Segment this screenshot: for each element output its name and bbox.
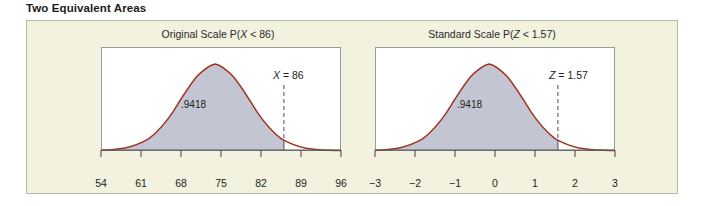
plot-curve-standard (375, 47, 615, 173)
plot-curve-original (101, 47, 341, 173)
tick-label: 82 (255, 177, 267, 189)
tick-label: 0 (492, 177, 498, 189)
tick-label: −3 (369, 177, 381, 189)
tick-label: 68 (175, 177, 187, 189)
figure-title: Two Equivalent Areas (26, 2, 146, 14)
tick-label: 3 (612, 177, 618, 189)
axis-tickmarks-standard (375, 150, 615, 157)
caption-prefix-standard: Standard Scale P( (428, 28, 513, 40)
caption-prefix-original: Original Scale P( (162, 28, 241, 40)
tick-label: −1 (449, 177, 461, 189)
area-probability-label-original: .9418 (181, 99, 206, 110)
tick-label: 61 (135, 177, 147, 189)
area-probability-label-standard: .9418 (457, 99, 482, 110)
tick-label: 96 (335, 177, 347, 189)
tick-label: 89 (295, 177, 307, 189)
axis-tickmarks-original (101, 150, 341, 157)
cutoff-value-original: = 86 (280, 69, 304, 81)
chart-original-scale: Original Scale P(X < 86) (73, 21, 363, 193)
caption-suffix-standard: < 1.57) (520, 28, 556, 40)
axis-tick-labels-original: 54 61 68 75 82 89 96 (101, 177, 341, 193)
tick-label: 2 (572, 177, 578, 189)
chart-caption-standard: Standard Scale P(Z < 1.57) (347, 28, 637, 40)
figure-panel: Original Scale P(X < 86) (26, 20, 678, 194)
tick-label: 75 (215, 177, 227, 189)
cutoff-label-standard: Z = 1.57 (549, 69, 588, 81)
cutoff-value-standard: = 1.57 (555, 69, 587, 81)
tick-label: 54 (95, 177, 107, 189)
tick-label: 1 (532, 177, 538, 189)
cutoff-label-original: X = 86 (273, 69, 304, 81)
caption-suffix-original: < 86) (247, 28, 274, 40)
cutoff-variable-original: X (273, 69, 280, 81)
tick-label: −2 (409, 177, 421, 189)
chart-caption-original: Original Scale P(X < 86) (73, 28, 363, 40)
axis-tick-labels-standard: −3 −2 −1 0 1 2 3 (375, 177, 615, 193)
chart-standard-scale: Standard Scale P(Z < 1.57) .9418 Z = 1.5… (347, 21, 637, 193)
